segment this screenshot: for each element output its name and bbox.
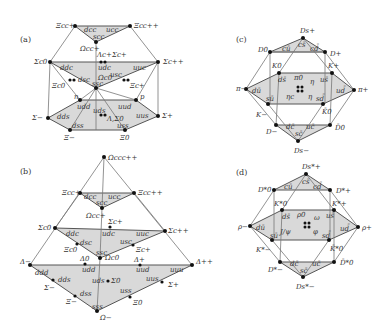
q-cd: cd̄ [310, 43, 320, 53]
delta-plus: Δ+ [133, 256, 145, 264]
d-star-plus: D*+ [335, 187, 351, 195]
q-uuu: uuu [170, 266, 184, 274]
omega-minus: Ω− [99, 314, 112, 322]
d-star-minus: D*− [267, 266, 283, 274]
k-zero-bar: K̄0 [321, 107, 332, 116]
q-usc-b: usc [120, 238, 132, 246]
q-cs: cs̄ [298, 41, 306, 49]
pi-plus: π+ [357, 86, 369, 94]
q-du-d: dū [256, 224, 265, 232]
k-star-plus: K*+ [331, 200, 347, 208]
sigma-plus-b: Σ+ [167, 281, 179, 289]
q-dsc: dsc [78, 76, 90, 84]
q-ddd: ddd [35, 269, 49, 277]
q-cu-d: cū [284, 183, 293, 191]
xi-c-plus-b: Ξc+ [135, 246, 151, 254]
panel-a: (a) Ξcc+ Ξcc++ dcc uc [20, 22, 184, 142]
proton: p [140, 93, 145, 101]
q-dds-b: dds [58, 276, 71, 284]
omega-c0-b: Ωc0 [104, 254, 120, 262]
sigma-c-0-b: Σc0 [37, 224, 52, 232]
k-star-zero: K*0 [273, 200, 288, 208]
xi-cc-plusplus: Ξcc++ [133, 22, 159, 30]
omega: ω [314, 214, 320, 222]
pi-minus: π− [235, 85, 247, 93]
omega-c0: Ωc0 [97, 74, 113, 82]
q-udc-b: udc [102, 230, 115, 238]
sigma-minus-b: Σ− [43, 284, 55, 292]
xi-cc-plusplus-b: Ξcc++ [137, 189, 163, 197]
q-uss-b: uss [120, 287, 132, 295]
q-sc: sc̄ [295, 130, 303, 138]
delta-plusplus: Δ++ [195, 258, 213, 266]
omega-cc-b: Ωcc+ [85, 212, 106, 220]
d-zero: D0 [257, 46, 269, 54]
ds-star-plus: Ds*+ [301, 163, 321, 171]
sigma-c-plusplus: Σc++ [162, 58, 184, 66]
q-uc-d: uc̄ [312, 260, 321, 268]
q-uc: uc̄ [306, 123, 315, 131]
panel-b: (b) Ωccc++ Ξcc+ Ξcc++ dcc ucc scc Ωcc+ [19, 154, 213, 322]
q-uss: uss [117, 122, 129, 130]
q-dc-d: dc̄ [290, 260, 299, 268]
rho-zero: ρ0 [296, 211, 306, 219]
xi-c-plus: Ξc+ [129, 82, 145, 90]
k-zero: K0 [271, 62, 282, 70]
k-star-zero-bar: K̄*0 [329, 244, 344, 253]
q-dss-b: dss [80, 290, 92, 298]
lambda-c: Λc+ [96, 51, 112, 59]
q-dds: dds [57, 113, 70, 121]
j-psi: J/ψ [278, 228, 291, 236]
xi-c0-b: Ξc0 [63, 246, 78, 254]
d-minus: D− [265, 128, 278, 136]
k-plus: K+ [327, 62, 339, 70]
multiplet-diagram: (a) Ξcc+ Ξcc++ dcc uc [0, 0, 386, 334]
delta-zero: Δ0 [79, 255, 90, 263]
sigma-minus: Σ− [31, 114, 43, 122]
delta-minus: Δ− [19, 258, 31, 266]
d-plus: D+ [329, 50, 342, 58]
q-sss: sss [92, 303, 103, 311]
q-ucc: ucc [106, 26, 118, 34]
sigma-c-plusplus-b: Σc++ [167, 227, 189, 235]
q-ucc-b: ucc [108, 193, 120, 201]
q-uuc: uuc [133, 64, 146, 72]
sigma-c-plus-b: Σc+ [107, 218, 123, 226]
q-uud-b: uud [136, 266, 150, 274]
q-uus: uus [136, 112, 149, 120]
xi-zero-b: Ξ0 [132, 299, 143, 307]
xi-cc-plus: Ξcc+ [55, 22, 75, 30]
q-us: us̄ [320, 76, 329, 84]
k-star-minus: K*− [255, 246, 271, 254]
q-cs-d: cs̄ [302, 178, 310, 186]
ds-plus: Ds+ [299, 27, 315, 35]
pi-zero: π0 [293, 74, 304, 82]
xi-minus: Ξ− [63, 134, 75, 142]
q-uud: uud [118, 103, 132, 111]
d-zero-bar: D̄0 [334, 123, 346, 132]
ds-star-minus: Ds*− [295, 283, 315, 291]
panel-c-label: (c) [236, 35, 247, 44]
d-star-zero-bar: D̄*0 [339, 258, 354, 267]
panel-a-label: (a) [20, 35, 31, 44]
q-ud: ud̄ [336, 85, 346, 95]
sigma-c-0: Σc0 [33, 58, 48, 66]
phi: φ [313, 228, 318, 236]
q-uds-b: uds [92, 277, 105, 285]
sigma-zero-b: Σ0 [110, 277, 121, 285]
eta-c: ηc [286, 93, 294, 101]
q-ud-d: ud̄ [340, 223, 350, 233]
q-sd-d: sd̄ [322, 230, 331, 240]
q-scc: scc [93, 33, 105, 41]
q-cd-d: cd̄ [313, 181, 323, 191]
xi-cc-plus-b: Ξcc+ [61, 189, 81, 197]
q-scc-b: scc [96, 199, 108, 207]
q-ds: ds̄ [278, 76, 286, 84]
q-cu: cū [282, 45, 291, 53]
xi-minus-b: Ξ− [65, 298, 77, 306]
q-ddc: ddc [60, 64, 73, 72]
omega-ccc: Ωccc++ [107, 154, 137, 162]
k-minus: K− [255, 111, 267, 119]
q-ds-d: ds̄ [282, 213, 290, 221]
q-du: dū [252, 87, 261, 95]
